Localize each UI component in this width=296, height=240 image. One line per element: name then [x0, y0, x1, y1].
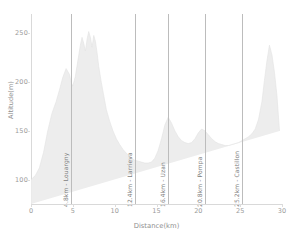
x-axis-title: Distance(km): [31, 222, 282, 230]
waypoint-marker-label: 4.8km - Louargny: [62, 153, 69, 207]
waypoint-marker-line: [71, 14, 72, 204]
waypoint-marker-line: [168, 14, 169, 204]
waypoint-marker-label: 16.4km - Uzan: [159, 162, 166, 207]
x-tick-label: 30: [278, 207, 286, 215]
x-tick-label: 0: [29, 207, 33, 215]
x-tick-label: 20: [194, 207, 202, 215]
x-tick-mark: [31, 204, 32, 207]
waypoint-marker-line: [135, 14, 136, 204]
y-tick-mark: [27, 180, 30, 181]
x-tick-mark: [198, 204, 199, 207]
x-tick-mark: [73, 204, 74, 207]
waypoint-marker-label: 25.2km - Castillon: [233, 151, 240, 207]
x-tick-label: 15: [152, 207, 160, 215]
y-tick-mark: [27, 33, 30, 34]
x-tick-mark: [115, 204, 116, 207]
x-tick-label: 5: [71, 207, 75, 215]
elevation-profile-chart: 100150200250 Altitude(m) 4.8km - Louargn…: [0, 0, 296, 240]
y-tick-mark: [27, 82, 30, 83]
waypoint-marker-line: [205, 14, 206, 204]
plot-area: 4.8km - Louargny12.4km - Larrieva16.4km …: [31, 14, 282, 204]
x-tick-mark: [282, 204, 283, 207]
y-tick-mark: [27, 131, 30, 132]
x-tick-mark: [157, 204, 158, 207]
waypoint-marker-label: 12.4km - Larrieva: [126, 152, 133, 207]
y-axis-title: Altitude(m): [7, 65, 15, 135]
x-tick-label: 25: [236, 207, 244, 215]
x-tick-label: 10: [111, 207, 119, 215]
waypoint-marker-line: [242, 14, 243, 204]
waypoint-marker-label: 20.8km - Pompa: [196, 157, 203, 207]
x-tick-mark: [240, 204, 241, 207]
